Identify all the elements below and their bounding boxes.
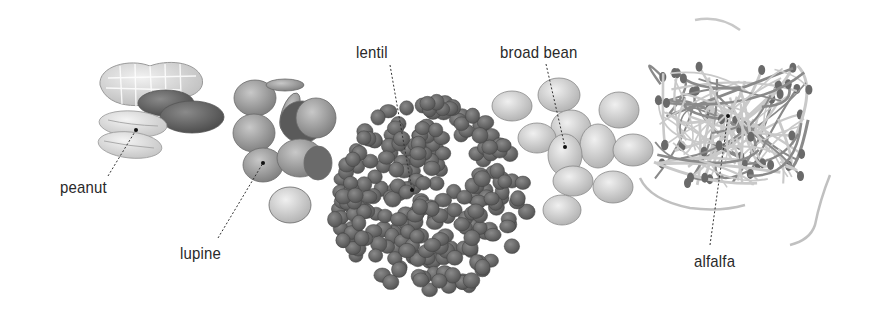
alfalfa-group <box>640 19 830 245</box>
label-broad-bean: broad bean <box>500 43 577 63</box>
label-peanut: peanut <box>60 178 107 198</box>
label-lentil: lentil <box>356 43 388 63</box>
lentil-group <box>328 94 536 296</box>
legume-illustration: peanut lupine lentil broad bean alfalfa <box>0 0 872 324</box>
legume-artwork <box>0 0 872 324</box>
label-lupine: lupine <box>180 244 221 264</box>
label-alfalfa: alfalfa <box>694 252 735 272</box>
lupine-group <box>233 79 336 223</box>
peanut-group <box>97 62 224 161</box>
